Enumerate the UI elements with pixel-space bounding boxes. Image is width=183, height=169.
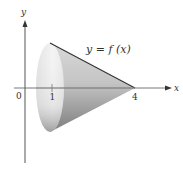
origin-label: 0 <box>16 91 22 101</box>
cone-diagram: y x 0 1 4 y = f (x) <box>0 0 183 169</box>
tick-label-1: 1 <box>50 92 56 102</box>
tick-label-4: 4 <box>132 92 138 102</box>
y-axis-label: y <box>20 7 27 17</box>
x-axis-label: x <box>174 83 179 93</box>
y-axis-arrow-icon <box>23 20 28 27</box>
curve-label: y = f (x) <box>85 43 131 56</box>
x-axis-arrow-icon <box>165 86 172 91</box>
